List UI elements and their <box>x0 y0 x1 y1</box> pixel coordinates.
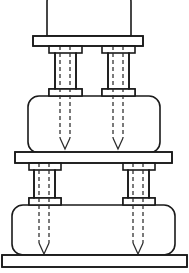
lower-column-left-cap-top <box>29 163 61 170</box>
upper-column-left-cap-top <box>49 46 82 53</box>
upper-column-right-cap-top <box>102 46 135 53</box>
bottom-tier-body <box>12 205 175 255</box>
top-plate-group <box>33 36 143 46</box>
top-plate <box>33 36 143 46</box>
middle-tier-body <box>28 96 160 153</box>
lower-column-right-cap-bottom-overlay <box>123 198 155 205</box>
top-tier-group <box>47 0 131 36</box>
middle-tier-group <box>28 89 160 153</box>
lower-column-left-cap-bottom-overlay <box>29 198 61 205</box>
drawing-svg <box>0 0 189 273</box>
upper-column-right-cap-bottom-overlay <box>102 89 135 96</box>
base-plate <box>2 255 187 267</box>
upper-column-left-cap-bottom-overlay <box>49 89 82 96</box>
lower-column-right-cap-top <box>123 163 155 170</box>
top-tier-body <box>47 0 131 36</box>
base-plate-group <box>2 255 187 267</box>
bottom-tier-group <box>12 198 175 255</box>
middle-plate-group <box>15 152 172 163</box>
middle-plate <box>15 152 172 163</box>
technical-drawing-canvas <box>0 0 189 273</box>
